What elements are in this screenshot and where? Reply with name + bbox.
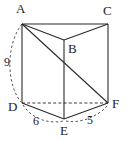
vertex-label-a: A [16, 2, 25, 15]
edge-BC [64, 24, 108, 40]
edge-EF [64, 103, 108, 119]
vertex-label-d: D [8, 100, 17, 113]
vertex-label-e: E [60, 124, 68, 137]
edge-DE [22, 103, 64, 119]
vertex-label-f: F [112, 97, 119, 110]
measure-label-base-de: 6 [33, 115, 39, 127]
measure-label-base-ef: 5 [87, 114, 93, 126]
measure-label-height: 9 [4, 56, 10, 68]
arc-base-DE [23, 105, 63, 122]
diagonal-AF [22, 24, 108, 103]
prism-drawing [0, 0, 125, 141]
edge-AB [22, 24, 64, 40]
vertex-label-b: B [68, 42, 77, 55]
arc-height-AD [10, 24, 22, 102]
prism-figure: A C B D F E 9 6 5 [0, 0, 125, 141]
vertex-label-c: C [103, 4, 112, 17]
